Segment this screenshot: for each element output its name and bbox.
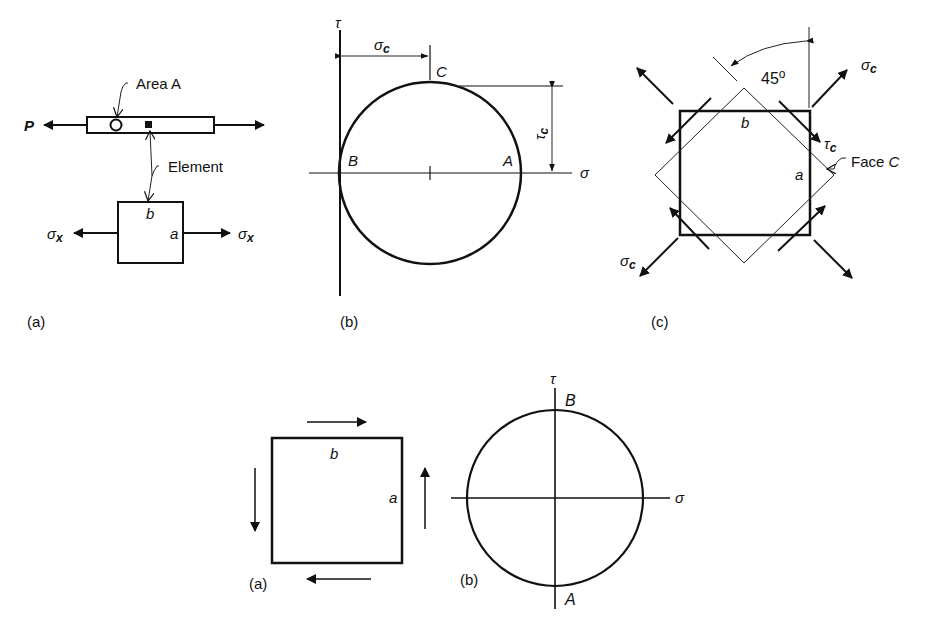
element-label: Element <box>168 158 224 175</box>
face-b-label: b <box>741 114 749 131</box>
caption-bottom-b: (b) <box>460 571 478 588</box>
face-c-label: Face C <box>851 153 900 170</box>
point-b-label: B <box>565 392 576 409</box>
tau-axis-label: τ <box>550 370 557 387</box>
sigma-c-top-label: σc <box>861 56 877 76</box>
caption-bottom-a: (a) <box>249 575 267 592</box>
sigma-c-label: σc <box>374 36 390 56</box>
bottom-panel-b: τ σ B A (b) <box>451 370 685 609</box>
face-a-label: a <box>170 225 178 242</box>
caption-top-c: (c) <box>651 313 669 330</box>
area-label: Area A <box>136 75 181 92</box>
point-a-label: A <box>564 591 576 608</box>
top-panel-a: P Area A Element b a σx σx (a) <box>24 75 264 330</box>
face-a-label: a <box>389 489 397 506</box>
sigma-c-arrow-top-right <box>812 70 847 107</box>
sigma-c-arrow-bottom-left <box>640 238 678 276</box>
point-c-label: C <box>436 63 447 80</box>
element-leader-down <box>148 176 152 201</box>
stress-left-label: σx <box>47 225 64 245</box>
diagonal-reference <box>713 57 737 81</box>
load-label: P <box>24 117 35 134</box>
sigma-c-arrow-top-left <box>637 68 673 104</box>
tau-c-label: τc <box>824 135 837 155</box>
caption-top-a: (a) <box>27 313 45 330</box>
mohr-circle-figure: P Area A Element b a σx σx (a) τ σ σc C <box>0 0 931 625</box>
top-panel-c: 45o σc σc τc b a Face C (c) <box>620 27 900 330</box>
sigma-axis-label: σ <box>675 489 685 506</box>
stress-right-label: σx <box>238 225 255 245</box>
area-leader <box>117 83 128 117</box>
element-marker <box>145 121 152 128</box>
sigma-axis-label: σ <box>580 164 590 181</box>
angle-label: 45o <box>761 67 786 87</box>
face-c-leader <box>827 158 846 169</box>
top-panel-b: τ σ σc C τc B A (b) <box>309 14 590 330</box>
sigma-c-arrow-bottom-right <box>814 240 852 278</box>
face-b-label: b <box>330 445 338 462</box>
face-a-label: a <box>795 166 803 183</box>
caption-top-b: (b) <box>340 313 358 330</box>
point-a-label: A <box>502 152 513 169</box>
tau-c-arrow-bottom-left <box>670 208 709 249</box>
face-b-label: b <box>146 205 154 222</box>
bottom-panel-a: b a (a) <box>249 422 425 592</box>
point-b-label: B <box>348 152 358 169</box>
tau-c-arrow-top-left <box>666 98 711 143</box>
area-circle <box>111 120 122 131</box>
angle-arc <box>731 41 806 66</box>
tau-axis-label: τ <box>335 14 342 31</box>
tau-c-label: τc <box>531 127 551 140</box>
element-leader-up <box>150 131 159 176</box>
sigma-c-bottom-label: σc <box>620 252 636 272</box>
tau-c-arrow-top-right <box>779 101 820 142</box>
